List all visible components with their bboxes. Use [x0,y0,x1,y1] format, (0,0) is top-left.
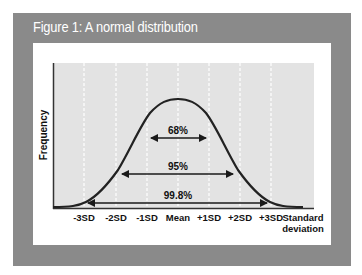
normal-distribution-chart: 68% 95% 99.8% Frequency -3SD -2SD -1SD M… [0,0,362,275]
x-axis-label-line2: deviation [282,223,324,234]
tick-mean: Mean [166,212,190,223]
y-axis-label: Frequency [38,109,49,160]
tick-plus-3sd: +3SD [259,212,283,223]
tick-plus-1sd: +1SD [197,212,221,223]
x-tick-labels: -3SD -2SD -1SD Mean +1SD +2SD +3SD [73,212,283,223]
label-95: 95% [168,161,188,172]
tick-minus-3sd: -3SD [73,212,95,223]
label-68: 68% [168,125,188,136]
tick-plus-2sd: +2SD [228,212,252,223]
x-axis-label-line1: Standard [282,212,323,223]
tick-minus-2sd: -2SD [105,212,127,223]
tick-minus-1sd: -1SD [136,212,158,223]
label-99-8: 99.8% [164,190,192,201]
